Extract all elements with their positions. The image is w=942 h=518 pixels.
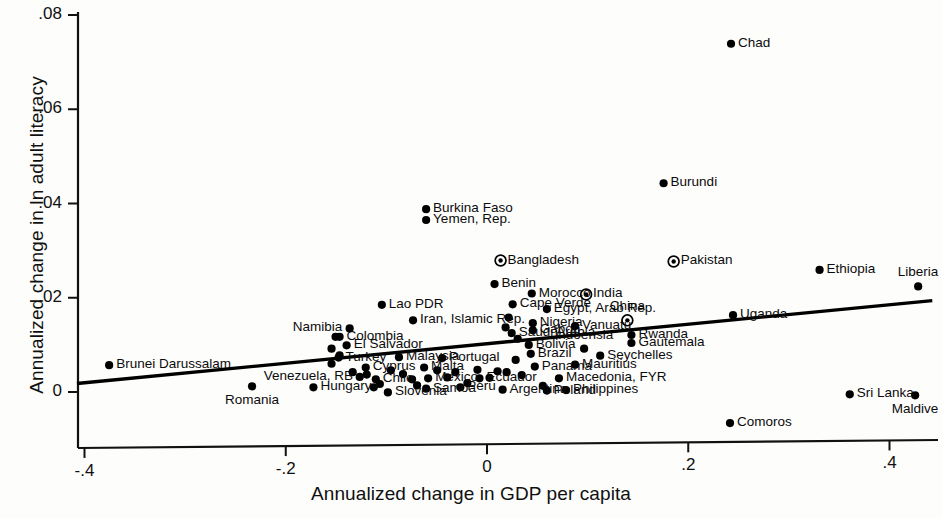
data-point-marker bbox=[362, 363, 370, 371]
point-label: Burundi bbox=[671, 175, 718, 189]
point-label: Liberia bbox=[898, 265, 939, 279]
data-point-marker bbox=[420, 363, 428, 371]
point-label: Sri Lanka bbox=[857, 386, 914, 400]
point-label: Chad bbox=[738, 36, 770, 50]
data-point-marker bbox=[509, 300, 517, 308]
plot-canvas bbox=[0, 0, 942, 518]
point-label: Ethiopia bbox=[827, 262, 876, 276]
data-point-marker bbox=[384, 388, 392, 396]
point-label: Peru bbox=[467, 379, 496, 393]
data-point-marker bbox=[671, 259, 675, 263]
point-label: Romania bbox=[225, 393, 279, 407]
data-point-marker bbox=[727, 40, 735, 48]
data-point-marker bbox=[525, 341, 533, 349]
point-label: Pakistan bbox=[681, 253, 733, 267]
x-tick-label: 0 bbox=[457, 457, 517, 477]
data-point-marker bbox=[424, 374, 432, 382]
data-point-marker bbox=[248, 382, 256, 390]
data-point-marker bbox=[726, 419, 734, 427]
x-tick-label: -.2 bbox=[256, 459, 316, 479]
data-point-marker bbox=[729, 311, 737, 319]
data-point-marker bbox=[334, 353, 342, 361]
x-axis-line bbox=[78, 440, 938, 448]
data-point-marker bbox=[422, 205, 430, 213]
point-label: Bangladesh bbox=[508, 253, 579, 267]
point-label: Indoensia bbox=[555, 328, 614, 342]
data-point-marker bbox=[627, 339, 635, 347]
point-label: Comoros bbox=[737, 415, 792, 429]
data-point-marker bbox=[378, 301, 386, 309]
point-label: Hungary bbox=[320, 379, 371, 393]
x-tick-label: -.4 bbox=[55, 461, 115, 481]
point-label: Benin bbox=[502, 276, 537, 290]
data-point-marker bbox=[372, 375, 380, 383]
scatter-plot-figure: ChadBurundiBurkina FasoYemen, Rep.Bangla… bbox=[0, 0, 942, 518]
x-tick-label: .4 bbox=[860, 453, 920, 473]
x-axis-title: Annualized change in GDP per capita bbox=[0, 483, 942, 505]
data-point-marker bbox=[512, 356, 520, 364]
point-label: China bbox=[610, 299, 645, 313]
point-label: Namibia bbox=[293, 320, 343, 334]
y-axis-title: Annualized change in ln adult literacy bbox=[26, 5, 48, 465]
point-label: Iran, Islamic Rep. bbox=[420, 312, 525, 326]
data-point-marker bbox=[422, 216, 430, 224]
data-point-marker bbox=[105, 361, 113, 369]
point-label: Maldive bbox=[892, 402, 939, 416]
data-point-marker bbox=[498, 386, 506, 394]
data-point-marker bbox=[815, 266, 823, 274]
data-point-marker bbox=[580, 345, 588, 353]
data-point-marker bbox=[527, 350, 535, 358]
data-point-marker bbox=[498, 258, 502, 262]
point-label: Brunei Darussalam bbox=[116, 357, 231, 371]
point-label: Yemen, Rep. bbox=[433, 212, 511, 226]
data-point-marker bbox=[309, 383, 317, 391]
data-point-marker bbox=[659, 179, 667, 187]
point-label: Uganda bbox=[740, 307, 787, 321]
point-label: Slovenia bbox=[395, 384, 447, 398]
data-point-marker bbox=[914, 282, 922, 290]
x-tick-label: .2 bbox=[658, 455, 718, 475]
data-point-marker bbox=[327, 360, 335, 368]
data-point-marker bbox=[327, 345, 335, 353]
data-point-marker bbox=[508, 329, 516, 337]
data-point-marker bbox=[409, 316, 417, 324]
data-point-marker bbox=[490, 280, 498, 288]
data-point-marker bbox=[627, 331, 635, 339]
point-label: Lao PDR bbox=[389, 297, 444, 311]
point-label: Philippines bbox=[573, 382, 638, 396]
data-point-marker bbox=[846, 390, 854, 398]
